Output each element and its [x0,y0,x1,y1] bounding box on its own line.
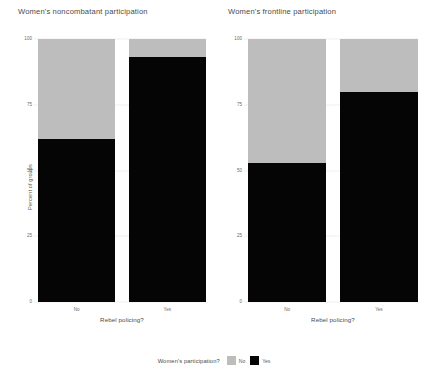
x-axis-title-right: Rebel policing? [248,316,418,323]
y-tick-label-100: 100 [234,36,242,41]
plot-area-frontline: 100 75 50 25 0 No [248,39,418,302]
panel-title-noncombatant: Women's noncombatant participation [0,7,214,16]
legend-item-no[interactable]: No [227,356,245,365]
panel-frontline: Women's frontline participation 100 75 5… [214,0,428,373]
x-tick-label-no: No [284,307,290,312]
panel-title-frontline: Women's frontline participation [214,7,428,16]
facet-panels: Women's noncombatant participation Perce… [0,0,428,373]
bar-frontline-policing-yes[interactable]: Yes [340,39,418,302]
bar-segment-yes[interactable] [129,57,206,302]
bar-segment-yes[interactable] [340,92,418,302]
x-tick-label-no: No [74,307,80,312]
bar-segment-yes[interactable] [38,139,115,302]
bar-noncombatant-policing-yes[interactable]: Yes [129,39,206,302]
y-tick-label-75: 75 [27,102,32,107]
y-tick-label-50: 50 [27,168,32,173]
y-tick-label-25: 25 [237,233,242,238]
legend-label-no: No [239,358,245,364]
y-tick-label-50: 50 [237,168,242,173]
bar-frontline-policing-no[interactable]: No [248,39,326,302]
bar-group-noncombatant: No Yes [38,39,206,302]
y-tick-label-0: 0 [29,299,32,304]
bar-segment-no[interactable] [129,39,206,57]
legend-swatch-yes [250,356,259,365]
y-tick-label-100: 100 [24,36,32,41]
legend: Women's participation? No Yes [0,356,428,365]
chart-figure: Women's noncombatant participation Perce… [0,0,428,373]
x-tick-label-yes: Yes [375,307,383,312]
bar-segment-no[interactable] [248,39,326,163]
legend-swatch-no [227,356,236,365]
y-tick-label-75: 75 [237,102,242,107]
y-tick-label-0: 0 [239,299,242,304]
y-tick-label-25: 25 [27,233,32,238]
bar-segment-yes[interactable] [248,163,326,302]
plot-area-noncombatant: 100 75 50 25 0 No [38,39,206,302]
legend-label-yes: Yes [262,358,270,364]
legend-item-yes[interactable]: Yes [250,356,270,365]
bar-group-frontline: No Yes [248,39,418,302]
x-axis-title-left: Rebel policing? [38,316,206,323]
legend-title: Women's participation? [158,358,220,364]
bar-segment-no[interactable] [38,39,115,139]
bar-segment-no[interactable] [340,39,418,92]
x-tick-label-yes: Yes [164,307,172,312]
bar-noncombatant-policing-no[interactable]: No [38,39,115,302]
panel-noncombatant: Women's noncombatant participation Perce… [0,0,214,373]
